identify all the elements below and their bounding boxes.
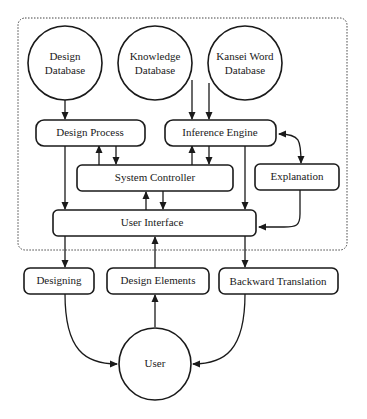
- edge-explanation-to-ui: [259, 190, 300, 227]
- knowledge-database-label-2: Database: [135, 64, 175, 76]
- knowledge-database-label-1: Knowledge: [130, 50, 181, 62]
- design-process-label: Design Process: [56, 126, 124, 138]
- system-diagram: Design Database Knowledge Database Kanse…: [0, 0, 367, 419]
- edge-inference-engine-explanation: [279, 134, 301, 163]
- node-inference-engine: Inference Engine: [165, 120, 276, 146]
- kansei-word-database-label-1: Kansei Word: [216, 50, 274, 62]
- edge-backward-translation-to-user: [193, 294, 245, 364]
- inference-engine-label: Inference Engine: [182, 126, 258, 138]
- node-knowledge-database: Knowledge Database: [118, 26, 192, 100]
- node-user-interface: User Interface: [53, 210, 256, 236]
- design-database-label-2: Database: [45, 64, 85, 76]
- node-system-controller: System Controller: [77, 165, 233, 191]
- user-interface-label: User Interface: [121, 216, 184, 228]
- design-database-label-1: Design: [49, 50, 81, 62]
- node-designing: Designing: [24, 268, 94, 294]
- node-design-process: Design Process: [36, 120, 145, 146]
- designing-label: Designing: [36, 274, 82, 286]
- system-controller-label: System Controller: [115, 171, 196, 183]
- node-design-database: Design Database: [28, 26, 102, 100]
- node-user: User: [119, 328, 191, 400]
- node-explanation: Explanation: [255, 164, 339, 190]
- edge-designing-to-user: [65, 294, 117, 364]
- node-design-elements: Design Elements: [107, 268, 209, 294]
- backward-translation-label: Backward Translation: [230, 275, 327, 287]
- explanation-label: Explanation: [270, 170, 324, 182]
- design-elements-label: Design Elements: [121, 274, 196, 286]
- node-backward-translation: Backward Translation: [219, 268, 338, 294]
- kansei-word-database-label-2: Database: [225, 64, 265, 76]
- node-kansei-word-database: Kansei Word Database: [208, 26, 282, 100]
- user-label: User: [145, 357, 166, 369]
